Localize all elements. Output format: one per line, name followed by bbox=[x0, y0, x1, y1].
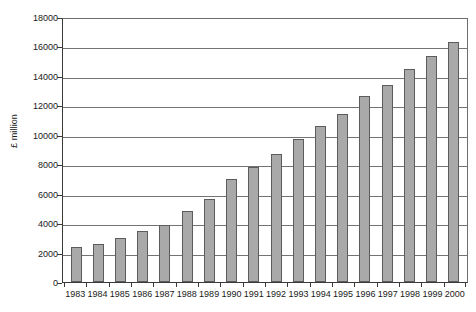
bar[interactable] bbox=[426, 56, 437, 282]
x-axis-tick-label: 1990 bbox=[220, 289, 242, 299]
bar[interactable] bbox=[382, 85, 393, 282]
y-axis-tick-label: 0 bbox=[14, 278, 58, 288]
x-axis-tick-mark bbox=[265, 283, 287, 288]
x-axis-tick-mark bbox=[332, 283, 354, 288]
x-axis-tick-label: 1994 bbox=[310, 289, 332, 299]
bar[interactable] bbox=[204, 199, 215, 282]
bar-chart: £ million 020004000600080001000012000140… bbox=[0, 0, 476, 312]
x-axis-tick-mark bbox=[176, 283, 198, 288]
x-axis-tick-mark bbox=[153, 283, 175, 288]
x-axis-tick-label: 1989 bbox=[198, 289, 220, 299]
plot-area bbox=[62, 18, 468, 283]
y-axis-tick-labels: 0200040006000800010000120001400016000180… bbox=[14, 10, 58, 285]
x-axis-tick-label: 1999 bbox=[421, 289, 443, 299]
x-axis-tick-mark bbox=[444, 283, 466, 288]
x-axis-tick-label: 1993 bbox=[287, 289, 309, 299]
x-axis-tick-label: 1988 bbox=[176, 289, 198, 299]
x-axis-tick-marks bbox=[62, 283, 468, 288]
x-axis-tick-mark bbox=[310, 283, 332, 288]
bar-slot bbox=[287, 19, 309, 282]
bar[interactable] bbox=[315, 126, 326, 282]
y-axis-tick-label: 6000 bbox=[14, 190, 58, 200]
x-axis-tick-mark bbox=[109, 283, 131, 288]
bar-slot bbox=[398, 19, 420, 282]
bar-slot bbox=[176, 19, 198, 282]
bar[interactable] bbox=[137, 231, 148, 282]
bar[interactable] bbox=[71, 247, 82, 282]
x-axis-tick-mark bbox=[354, 283, 376, 288]
y-axis-tick-label: 2000 bbox=[14, 249, 58, 259]
bar[interactable] bbox=[448, 42, 459, 282]
bar[interactable] bbox=[159, 225, 170, 282]
x-axis-tick-mark bbox=[377, 283, 399, 288]
x-axis-tick-label: 1991 bbox=[243, 289, 265, 299]
x-axis-tick-label: 1983 bbox=[64, 289, 86, 299]
x-axis-tick-label: 1986 bbox=[131, 289, 153, 299]
x-axis-tick-mark bbox=[287, 283, 309, 288]
x-axis-tick-mark bbox=[220, 283, 242, 288]
y-axis-tick-label: 12000 bbox=[14, 101, 58, 111]
x-axis-tick-label: 1997 bbox=[377, 289, 399, 299]
bar-slot bbox=[443, 19, 465, 282]
bar[interactable] bbox=[359, 96, 370, 282]
x-axis-tick-mark bbox=[243, 283, 265, 288]
bar-slot bbox=[154, 19, 176, 282]
bar-slot bbox=[109, 19, 131, 282]
bar[interactable] bbox=[337, 114, 348, 282]
bar-slot bbox=[332, 19, 354, 282]
bar-slot bbox=[309, 19, 331, 282]
bar-slot bbox=[243, 19, 265, 282]
bar-slot bbox=[198, 19, 220, 282]
y-axis-tick-label: 18000 bbox=[14, 13, 58, 23]
x-axis-tick-mark bbox=[399, 283, 421, 288]
bar-slot bbox=[354, 19, 376, 282]
x-axis-tick-label: 1992 bbox=[265, 289, 287, 299]
bar[interactable] bbox=[404, 69, 415, 282]
bar-slot bbox=[221, 19, 243, 282]
bar[interactable] bbox=[182, 211, 193, 282]
x-axis-tick-label: 1985 bbox=[109, 289, 131, 299]
bar[interactable] bbox=[248, 167, 259, 282]
x-axis-tick-label: 1995 bbox=[332, 289, 354, 299]
bar-slot bbox=[65, 19, 87, 282]
bar-slot bbox=[265, 19, 287, 282]
bar[interactable] bbox=[226, 179, 237, 282]
x-axis-tick-mark bbox=[64, 283, 86, 288]
bar-slot bbox=[376, 19, 398, 282]
x-axis-tick-label: 1998 bbox=[399, 289, 421, 299]
bar-slot bbox=[421, 19, 443, 282]
x-axis-tick-mark bbox=[131, 283, 153, 288]
bar-series bbox=[63, 19, 467, 282]
y-axis-tick-label: 8000 bbox=[14, 160, 58, 170]
y-axis-tick-label: 4000 bbox=[14, 219, 58, 229]
bar-slot bbox=[87, 19, 109, 282]
x-axis-tick-mark bbox=[86, 283, 108, 288]
bar[interactable] bbox=[93, 244, 104, 282]
y-axis-tick-label: 16000 bbox=[14, 42, 58, 52]
y-axis-tick-label: 14000 bbox=[14, 72, 58, 82]
x-axis-tick-mark bbox=[421, 283, 443, 288]
x-axis-tick-mark bbox=[198, 283, 220, 288]
x-axis-tick-label: 1984 bbox=[86, 289, 108, 299]
x-axis-tick-labels: 1983198419851986198719881989199019911992… bbox=[62, 289, 468, 299]
bar[interactable] bbox=[115, 238, 126, 282]
x-axis-tick-label: 1996 bbox=[354, 289, 376, 299]
bar[interactable] bbox=[271, 154, 282, 282]
x-axis-tick-label: 2000 bbox=[444, 289, 466, 299]
y-axis-tick-label: 10000 bbox=[14, 131, 58, 141]
bar[interactable] bbox=[293, 139, 304, 282]
bar-slot bbox=[132, 19, 154, 282]
x-axis-tick-label: 1987 bbox=[153, 289, 175, 299]
